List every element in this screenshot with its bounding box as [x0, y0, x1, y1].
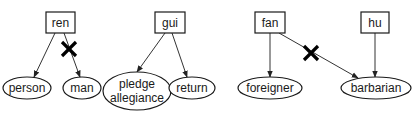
edge-ren-man: [64, 33, 80, 77]
node-pledge-label-line1: pledge: [119, 77, 155, 91]
node-hu-label: hu: [368, 16, 381, 30]
node-foreigner: foreigner: [238, 77, 302, 99]
node-person: person: [3, 77, 51, 99]
node-pledge-allegiance: pledge allegiance: [103, 72, 171, 110]
node-ren: ren: [46, 12, 75, 33]
node-barbarian-label: barbarian: [351, 81, 402, 95]
node-pledge-label-line2: allegiance: [110, 91, 164, 105]
node-gui-label: gui: [162, 16, 178, 30]
diagram-canvas: ren gui fan hu person man pledge allegia…: [0, 0, 415, 118]
node-return-label: return: [176, 81, 207, 95]
node-ren-label: ren: [52, 16, 69, 30]
edge-gui-pledge-allegiance: [137, 33, 165, 72]
edge-gui-return: [172, 33, 187, 77]
node-return: return: [169, 77, 215, 99]
node-fan-label: fan: [262, 16, 279, 30]
node-barbarian: barbarian: [341, 77, 411, 99]
node-fan: fan: [255, 12, 285, 33]
edge-fan-barbarian: [279, 33, 358, 78]
node-gui: gui: [155, 12, 185, 33]
node-man: man: [63, 77, 101, 99]
node-man-label: man: [70, 81, 93, 95]
blocked-cross-ren-man: [62, 42, 76, 56]
edge-ren-person: [34, 33, 55, 77]
blocked-cross-fan-barbarian: [304, 46, 318, 60]
node-hu: hu: [361, 12, 389, 33]
node-foreigner-label: foreigner: [246, 81, 293, 95]
node-person-label: person: [9, 81, 46, 95]
